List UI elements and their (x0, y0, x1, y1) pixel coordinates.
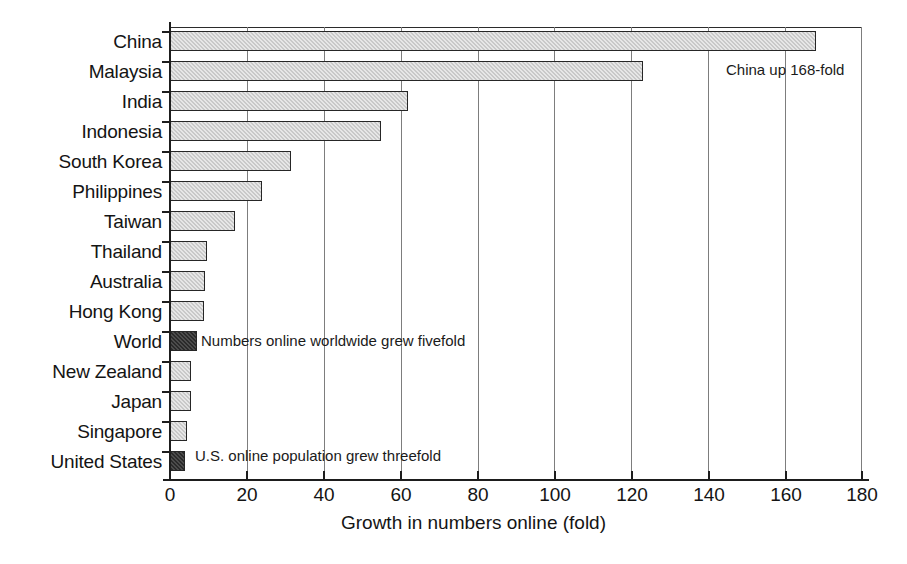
y-label-china: China (0, 32, 162, 51)
x-tick-80 (477, 471, 479, 480)
y-label-singapore: Singapore (0, 422, 162, 441)
x-tick-label-0: 0 (165, 484, 176, 506)
bar-australia (170, 271, 205, 291)
bar-malaysia (170, 61, 643, 81)
gridline-140 (708, 27, 709, 479)
bar-chart: China Malaysia India Indonesia South Kor… (0, 0, 907, 564)
bar-united-states (170, 451, 185, 471)
x-tick-160 (785, 471, 787, 480)
x-tick-label-160: 160 (770, 484, 802, 506)
bar-world (170, 331, 197, 351)
gridline-160 (785, 27, 786, 479)
bar-indonesia (170, 121, 381, 141)
y-label-indonesia: Indonesia (0, 122, 162, 141)
bar-singapore (170, 421, 187, 441)
x-tick-label-100: 100 (539, 484, 571, 506)
x-tick-100 (554, 471, 556, 480)
gridline-180 (861, 27, 862, 479)
y-label-thailand: Thailand (0, 242, 162, 261)
gridline-100 (554, 27, 555, 479)
x-tick-140 (708, 471, 710, 480)
bar-china (170, 31, 816, 51)
x-tick-label-40: 40 (313, 484, 334, 506)
y-label-south-korea: South Korea (0, 152, 162, 171)
x-tick-label-60: 60 (390, 484, 411, 506)
annotation-world: Numbers online worldwide grew fivefold (201, 333, 465, 349)
y-label-united-states: United States (0, 452, 162, 471)
gridline-80 (478, 27, 479, 479)
y-label-hong-kong: Hong Kong (0, 302, 162, 321)
x-tick-20 (246, 471, 248, 480)
y-label-philippines: Philippines (0, 182, 162, 201)
x-tick-label-80: 80 (467, 484, 488, 506)
bar-thailand (170, 241, 207, 261)
y-label-japan: Japan (0, 392, 162, 411)
y-label-new-zealand: New Zealand (0, 362, 162, 381)
bar-india (170, 91, 408, 111)
bar-new-zealand (170, 361, 191, 381)
bar-japan (170, 391, 191, 411)
y-label-world: World (0, 332, 162, 351)
x-axis-title: Growth in numbers online (fold) (0, 512, 907, 534)
y-label-australia: Australia (0, 272, 162, 291)
x-tick-180 (861, 471, 863, 480)
x-tick-label-140: 140 (693, 484, 725, 506)
x-tick-label-180: 180 (846, 484, 878, 506)
x-tick-label-120: 120 (616, 484, 648, 506)
y-axis-labels: China Malaysia India Indonesia South Kor… (0, 0, 162, 480)
bar-philippines (170, 181, 262, 201)
y-axis-line (169, 22, 171, 480)
bar-south-korea (170, 151, 291, 171)
y-label-taiwan: Taiwan (0, 212, 162, 231)
gridline-120 (631, 27, 632, 479)
x-tick-120 (631, 471, 633, 480)
x-tick-60 (400, 471, 402, 480)
y-label-malaysia: Malaysia (0, 62, 162, 81)
x-tick-40 (323, 471, 325, 480)
bar-taiwan (170, 211, 235, 231)
annotation-united-states: U.S. online population grew threefold (195, 448, 441, 464)
plot-area (170, 27, 862, 479)
annotation-china: China up 168-fold (726, 62, 844, 78)
bar-hong-kong (170, 301, 204, 321)
y-label-india: India (0, 92, 162, 111)
x-axis-line (163, 479, 869, 481)
x-tick-0 (169, 471, 171, 480)
x-tick-label-20: 20 (236, 484, 257, 506)
